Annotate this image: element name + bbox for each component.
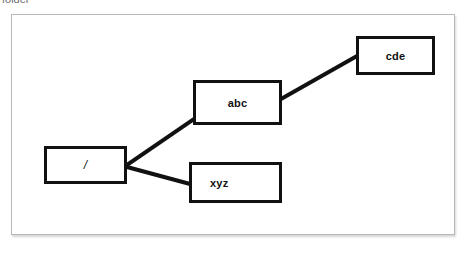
node-root[interactable]: / [44,146,127,184]
edge-root-abc [127,119,194,165]
node-abc[interactable]: abc [193,80,282,125]
caption-text: folder [2,0,30,6]
caption-clip: folder [0,0,120,9]
node-abc-label: abc [196,97,279,109]
edge-root-xyz [127,167,190,184]
node-cde[interactable]: cde [356,36,435,75]
node-cde-label: cde [359,50,432,62]
edge-abc-cde [281,56,357,99]
diagram-canvas: / abc cde xyz [12,15,456,236]
node-xyz-label: xyz [192,177,228,189]
node-root-label: / [47,158,124,172]
node-xyz[interactable]: xyz [189,162,282,203]
diagram-panel: / abc cde xyz [11,14,455,235]
